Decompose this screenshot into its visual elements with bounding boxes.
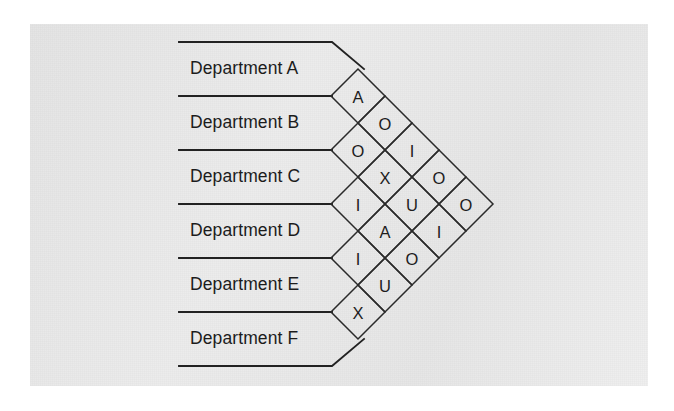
relationship-code-b-f: I — [437, 223, 442, 241]
department-label-e: Department E — [190, 276, 299, 294]
relationship-code-a-b: A — [352, 88, 363, 106]
relationship-code-a-f: O — [460, 196, 473, 214]
relationship-code-b-c: O — [352, 142, 365, 160]
relationship-code-c-e: A — [379, 223, 390, 241]
relationship-code-c-d: I — [356, 196, 361, 214]
figure-page: AOIOOOXUIIAOIUX Department ADepartment B… — [0, 0, 674, 411]
rel-chart-svg: AOIOOOXUIIAOIUX — [0, 0, 674, 411]
relationship-code-c-f: O — [406, 250, 419, 268]
relationship-code-a-d: I — [410, 142, 415, 160]
relationship-code-b-e: U — [406, 196, 418, 214]
department-label-f: Department F — [190, 330, 298, 348]
relationship-code-d-f: U — [379, 277, 391, 295]
relationship-code-a-c: O — [379, 115, 392, 133]
department-label-c: Department C — [190, 168, 300, 186]
relationship-code-e-f: X — [352, 304, 363, 322]
department-label-b: Department B — [190, 114, 299, 132]
relationship-code-d-e: I — [356, 250, 361, 268]
department-label-d: Department D — [190, 222, 300, 240]
department-label-a: Department A — [190, 60, 298, 78]
relationship-code-a-e: O — [433, 169, 446, 187]
relationship-code-b-d: X — [379, 169, 390, 187]
